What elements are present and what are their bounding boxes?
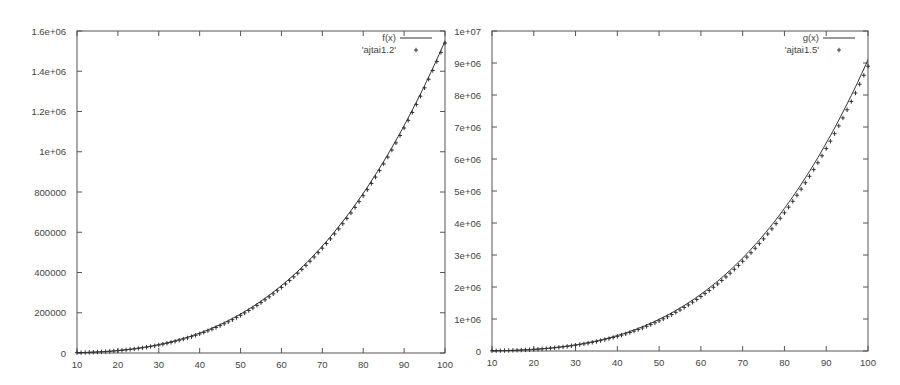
x-tick-label: 40 <box>612 357 623 368</box>
series-point <box>398 133 402 137</box>
series-point <box>329 237 333 241</box>
series-point <box>665 315 669 319</box>
series-point <box>565 344 569 348</box>
x-tick-label: 10 <box>72 359 83 370</box>
x-tick-label: 40 <box>194 359 205 370</box>
series-point <box>173 339 177 343</box>
series-point <box>132 347 136 351</box>
series-point <box>590 340 594 344</box>
series-point <box>841 116 845 120</box>
series-point <box>849 99 853 103</box>
y-tick-label: 6e+06 <box>454 154 481 165</box>
series-point <box>586 341 590 345</box>
legend-points-label: 'ajtai1.2' <box>362 44 396 55</box>
x-tick-label: 100 <box>437 359 453 370</box>
series-point <box>259 300 263 304</box>
series-point <box>858 82 862 86</box>
y-tick-label: 1e+06 <box>39 146 66 157</box>
series-point <box>519 348 523 352</box>
series-point <box>507 348 511 352</box>
x-tick-label: 70 <box>317 359 328 370</box>
x-tick-label: 20 <box>528 357 539 368</box>
series-point <box>271 292 275 296</box>
series-point <box>390 148 394 152</box>
x-tick-label: 10 <box>487 357 498 368</box>
y-tick-label: 5e+06 <box>454 186 481 197</box>
legend-line-label: g(x) <box>803 32 819 43</box>
series-point <box>251 306 255 310</box>
legend-line-label: f(x) <box>382 32 396 43</box>
y-tick-label: 1.2e+06 <box>31 106 66 117</box>
series-point <box>845 108 849 112</box>
x-tick-label: 20 <box>113 359 124 370</box>
series-point <box>778 216 782 220</box>
series-point <box>333 232 337 236</box>
series-point <box>79 350 83 354</box>
series-point <box>582 342 586 346</box>
x-tick-label: 30 <box>570 357 581 368</box>
series-point <box>284 282 288 286</box>
series-point <box>503 348 507 352</box>
series-point <box>263 298 267 302</box>
series-point <box>120 348 124 352</box>
series-point <box>337 227 341 231</box>
series-point <box>304 263 308 267</box>
series-point <box>288 278 292 282</box>
x-tick-label: 60 <box>276 359 287 370</box>
series-point <box>414 102 418 106</box>
y-tick-label: 0 <box>61 348 66 359</box>
series-point <box>394 141 398 145</box>
y-tick-label: 9e+06 <box>454 58 481 69</box>
series-point <box>349 211 353 215</box>
series-line <box>492 50 872 350</box>
y-tick-label: 8e+06 <box>454 90 481 101</box>
series-point <box>369 181 373 185</box>
x-tick-label: 90 <box>821 357 832 368</box>
series-point <box>544 346 548 350</box>
y-tick-label: 200000 <box>34 307 66 318</box>
legend-points-label: 'ajtai1.5' <box>785 44 819 55</box>
series-point <box>300 267 304 271</box>
plot-left: 1020304050607080901000200000400000600000… <box>31 26 453 371</box>
series-point <box>296 271 300 275</box>
series-point <box>511 348 515 352</box>
series-point <box>292 275 296 279</box>
series-point <box>657 319 661 323</box>
y-tick-label: 0 <box>476 346 481 357</box>
x-tick-label: 50 <box>654 357 665 368</box>
series-point <box>373 175 377 179</box>
series-point <box>140 346 144 350</box>
series-point <box>275 288 279 292</box>
series-point <box>153 344 157 348</box>
y-tick-label: 2e+06 <box>454 282 481 293</box>
series-point <box>95 350 99 354</box>
series-point <box>787 205 791 209</box>
x-tick-label: 90 <box>399 359 410 370</box>
y-tick-label: 800000 <box>34 187 66 198</box>
series-point <box>569 344 573 348</box>
series-point <box>83 350 87 354</box>
series-point <box>378 168 382 172</box>
series-point <box>157 343 161 347</box>
series-point <box>574 343 578 347</box>
x-tick-label: 50 <box>235 359 246 370</box>
series-point <box>247 308 251 312</box>
series-point <box>490 349 494 353</box>
y-tick-label: 1e+07 <box>454 26 481 37</box>
series-point <box>149 344 153 348</box>
series-point <box>515 348 519 352</box>
series-point <box>116 348 120 352</box>
series-point <box>267 295 271 299</box>
y-tick-label: 3e+06 <box>454 250 481 261</box>
series-point <box>365 187 369 191</box>
series-point <box>553 346 557 350</box>
series-point <box>799 187 803 191</box>
series-point <box>661 317 665 321</box>
series-point <box>345 216 349 220</box>
series-point <box>853 91 857 95</box>
y-tick-label: 1e+06 <box>454 314 481 325</box>
series-point <box>324 241 328 245</box>
y-tick-label: 400000 <box>34 267 66 278</box>
y-tick-label: 7e+06 <box>454 122 481 133</box>
plot-frame <box>492 31 868 351</box>
